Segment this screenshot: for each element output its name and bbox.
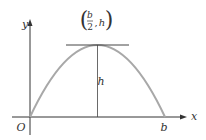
vertex-label: ( b 2 , h ) bbox=[80, 7, 114, 32]
height-label: h bbox=[97, 75, 104, 88]
x-intercept-label: b bbox=[160, 121, 167, 134]
vertex-denominator: 2 bbox=[87, 22, 93, 32]
origin-label: O bbox=[16, 121, 25, 134]
x-axis-label: x bbox=[191, 110, 198, 123]
vertex-numerator: b bbox=[87, 10, 93, 20]
parabola-diagram: y x O b h ( b 2 , h ) bbox=[0, 0, 206, 140]
x-axis-arrow-icon bbox=[180, 115, 187, 120]
vertex-comma: , bbox=[94, 17, 97, 28]
y-axis-arrow-icon bbox=[28, 19, 33, 26]
y-axis-label: y bbox=[21, 18, 29, 31]
vertex-close-paren: ) bbox=[105, 7, 114, 32]
